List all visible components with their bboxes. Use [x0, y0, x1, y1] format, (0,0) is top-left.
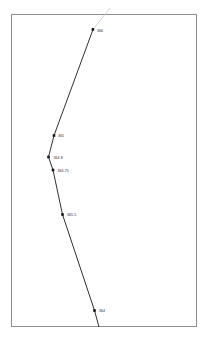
vertex-marker: [52, 169, 55, 172]
elevation-profile-diagram: 366 365 364.8 364.75 365.5 364: [0, 0, 208, 341]
drawing-border: [12, 15, 197, 327]
vertex-marker: [53, 134, 56, 137]
vertex-label-364-8: 364.8: [54, 156, 63, 160]
vertex-marker: [93, 309, 96, 312]
vertex-label-365: 365: [58, 134, 64, 138]
vertex-marker: [47, 156, 50, 159]
diagram-canvas: 366 365 364.8 364.75 365.5 364: [0, 0, 208, 341]
vertex-marker: [92, 28, 95, 31]
vertex-label-365-5: 365.5: [67, 213, 76, 217]
vertex-label-364: 364: [99, 309, 105, 313]
vertex-label-366: 366: [97, 29, 103, 33]
vertex-marker: [61, 213, 64, 216]
vertex-label-364-75: 364.75: [58, 169, 69, 173]
